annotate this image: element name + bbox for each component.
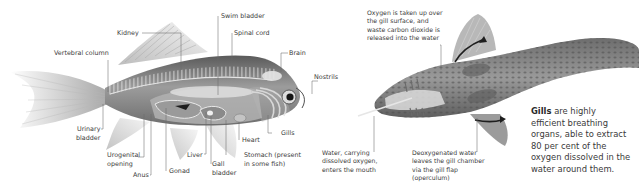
- label-anus: Anus: [133, 171, 149, 180]
- label-stomach: Stomach (present in some fish): [244, 151, 301, 168]
- label-gall-bladder: Gall bladder: [212, 160, 236, 177]
- label-gills: Gills: [281, 129, 295, 138]
- anatomy-fish: [10, 22, 304, 160]
- note-oxygen-uptake: Oxygen is taken up over the gill surface…: [367, 9, 443, 43]
- label-swim-bladder: Swim bladder: [221, 12, 265, 21]
- callout-bold-term: Gills: [531, 106, 551, 116]
- label-spinal-cord: Spinal cord: [234, 29, 270, 38]
- note-water-in: Water, carrying dissolved oxygen, enters…: [322, 149, 378, 174]
- gills-callout: Gills are highly efficient breathing org…: [531, 106, 630, 176]
- label-kidney: Kidney: [117, 29, 139, 38]
- label-gonad: Gonad: [169, 167, 190, 176]
- label-urinary-bladder: Urinary bladder: [76, 125, 100, 142]
- label-liver: Liver: [187, 151, 203, 160]
- fish-anatomy-diagram: Kidney Swim bladder Spinal cord Vertebra…: [0, 0, 639, 193]
- note-water-out: Deoxygenated water leaves the gill chamb…: [412, 149, 485, 183]
- label-brain: Brain: [289, 49, 306, 58]
- label-urogenital-opening: Urogenital opening: [107, 151, 140, 168]
- label-nostrils: Nostrils: [314, 73, 338, 82]
- label-heart: Heart: [242, 136, 260, 145]
- label-vertebral-column: Vertebral column: [54, 49, 109, 58]
